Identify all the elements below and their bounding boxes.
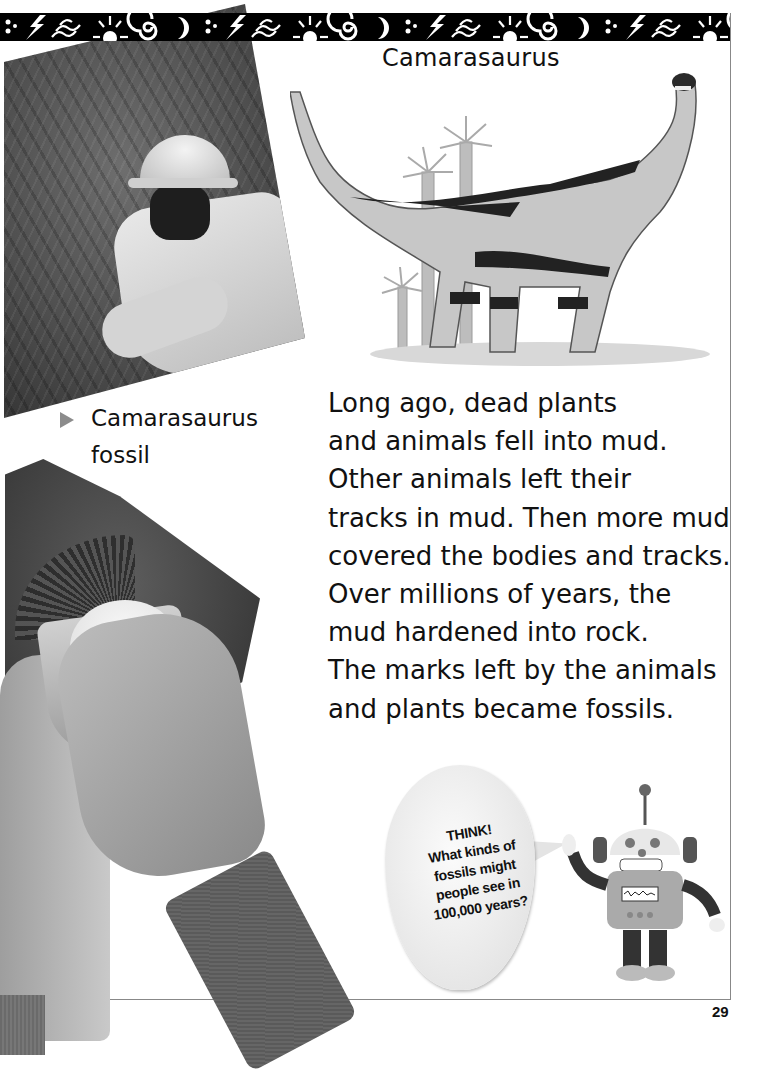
body-line: mud hardened into rock. xyxy=(328,613,728,651)
robot-mascot xyxy=(555,775,725,985)
body-line: Over millions of years, the xyxy=(328,575,728,613)
camarasaurus-illustration xyxy=(290,72,710,372)
body-line: and plants became fossils. xyxy=(328,690,728,728)
body-paragraph: Long ago, dead plants and animals fell i… xyxy=(328,384,728,728)
decorative-header-band xyxy=(0,13,731,41)
body-line: Other animals left their xyxy=(328,460,728,498)
page-frame-right xyxy=(730,13,731,1000)
page-number: 29 xyxy=(712,1003,729,1020)
body-line: and animals fell into mud. xyxy=(328,422,728,460)
caption-arrow-icon xyxy=(60,412,74,428)
fossil-dig-photo xyxy=(0,0,310,420)
shell-fossil-photo xyxy=(0,455,340,1041)
think-speech-bubble: THINK! What kinds of fossils might peopl… xyxy=(385,765,545,990)
caption-line: Camarasaurus xyxy=(91,405,258,431)
dinosaur-label: Camarasaurus xyxy=(382,44,560,72)
body-line: Long ago, dead plants xyxy=(328,384,728,422)
sleeve xyxy=(162,848,357,1072)
body-line: covered the bodies and tracks. xyxy=(328,537,728,575)
body-line: tracks in mud. Then more mud xyxy=(328,499,728,537)
body-line: The marks left by the animals xyxy=(328,651,728,689)
